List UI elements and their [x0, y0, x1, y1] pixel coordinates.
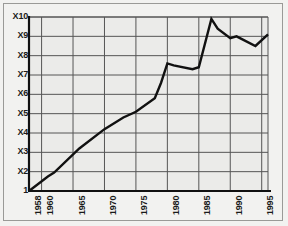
line-chart — [0, 0, 288, 226]
x-tick-label: 1970 — [108, 196, 118, 215]
x-tick-label: 1980 — [171, 196, 181, 215]
y-tick-label: X2 — [17, 167, 28, 176]
x-tick-label: 1960 — [45, 196, 55, 215]
y-tick-label: X3 — [17, 147, 28, 156]
y-tick-label: X4 — [17, 128, 28, 137]
y-tick-label: X5 — [17, 109, 28, 118]
x-tick-label: 1958 — [33, 196, 43, 215]
x-tick-label: 1985 — [202, 196, 212, 215]
x-tick-label: 1995 — [265, 196, 275, 215]
y-tick-label: 1 — [23, 186, 28, 195]
x-tick-label: 1975 — [139, 196, 149, 215]
y-tick-label: X7 — [17, 70, 28, 79]
y-tick-label: X6 — [17, 89, 28, 98]
x-tick-label: 1965 — [77, 196, 87, 215]
x-tick-label: 1990 — [234, 196, 244, 215]
y-tick-label: X8 — [17, 51, 28, 60]
y-tick-label: X10 — [13, 12, 28, 21]
y-tick-label: X9 — [17, 31, 28, 40]
